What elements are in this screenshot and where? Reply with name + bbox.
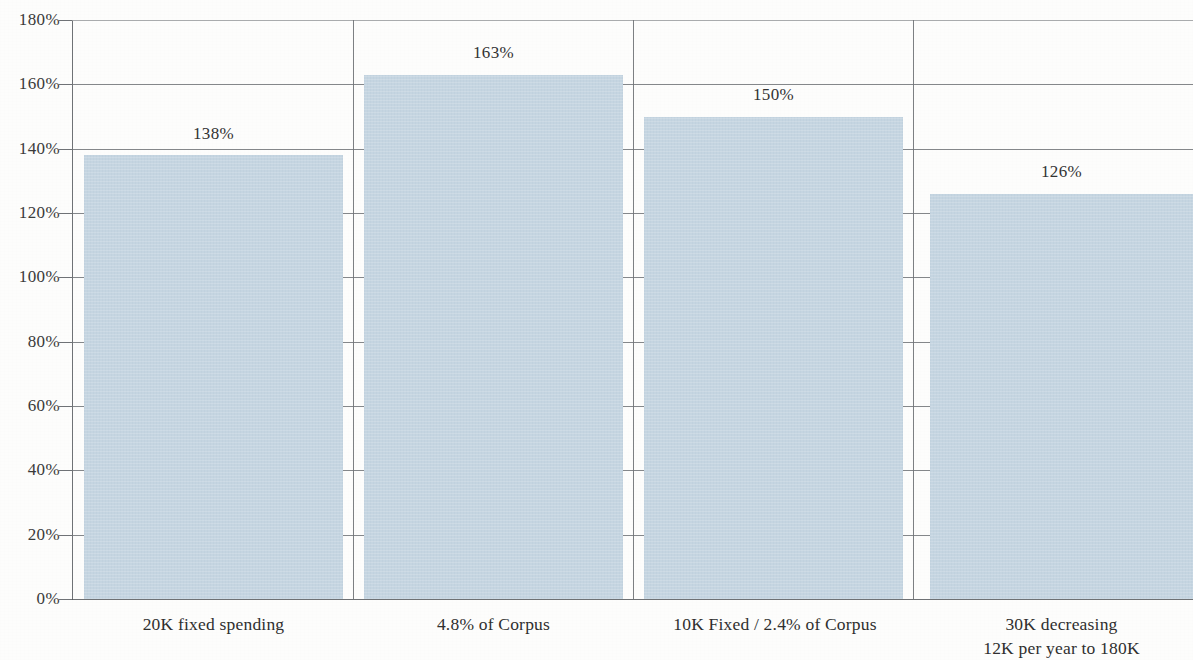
bar-30k-decreasing[interactable] (930, 194, 1193, 599)
y-axis-tick-label: 160% (0, 74, 60, 94)
y-axis-tick-mark (58, 277, 72, 278)
bar-20k-fixed-spending[interactable] (84, 155, 343, 599)
plot-area (72, 20, 1193, 599)
y-axis-tick-mark (58, 213, 72, 214)
y-axis-tick-mark (58, 20, 72, 21)
y-axis-tick-mark (58, 599, 72, 600)
x-axis-category-label-4: 30K decreasing 12K per year to 180K (930, 612, 1193, 660)
y-axis-tick-mark (58, 342, 72, 343)
x-axis-category-label-3: 10K Fixed / 2.4% of Corpus (630, 612, 920, 636)
x-axis-category-label-1: 20K fixed spending (84, 612, 343, 636)
bar-10k-fixed-2-4-percent-of-corpus[interactable] (644, 117, 903, 600)
category-divider (633, 20, 634, 599)
category-divider (353, 20, 354, 599)
y-axis-tick-label: 0% (0, 589, 60, 609)
y-axis-tick-mark (58, 470, 72, 471)
category-divider (913, 20, 914, 599)
category-label-line: 20K fixed spending (143, 614, 285, 634)
bar-value-label: 138% (84, 124, 343, 144)
y-axis-tick-mark (58, 406, 72, 407)
gridline-baseline-0 (72, 599, 1193, 600)
x-axis-category-label-2: 4.8% of Corpus (364, 612, 623, 636)
bar-value-label: 163% (364, 43, 623, 63)
category-label-line: 30K decreasing (1005, 614, 1117, 634)
bar-value-label: 150% (644, 85, 903, 105)
category-label-line: 10K Fixed / 2.4% of Corpus (673, 614, 877, 634)
y-axis-tick-mark (58, 149, 72, 150)
category-label-line: 12K per year to 180K (930, 636, 1193, 660)
y-axis-tick-mark (58, 535, 72, 536)
y-axis-tick-label: 80% (0, 332, 60, 352)
y-axis-tick-label: 140% (0, 139, 60, 159)
y-axis-tick-label: 100% (0, 267, 60, 287)
y-axis-tick-label: 40% (0, 460, 60, 480)
y-axis-tick-label: 20% (0, 525, 60, 545)
y-axis-tick-label: 180% (0, 10, 60, 30)
y-axis-tick-mark (58, 84, 72, 85)
y-axis-tick-label: 120% (0, 203, 60, 223)
bar-value-label: 126% (930, 162, 1193, 182)
bar-chart: 0% 20% 40% 60% 80% 100% 120% 140% 160% 1… (0, 0, 1193, 660)
chart-page: 0% 20% 40% 60% 80% 100% 120% 140% 160% 1… (0, 0, 1193, 660)
category-label-line: 4.8% of Corpus (437, 614, 550, 634)
bar-4-8-percent-of-corpus[interactable] (364, 75, 623, 599)
y-axis-tick-label: 60% (0, 396, 60, 416)
